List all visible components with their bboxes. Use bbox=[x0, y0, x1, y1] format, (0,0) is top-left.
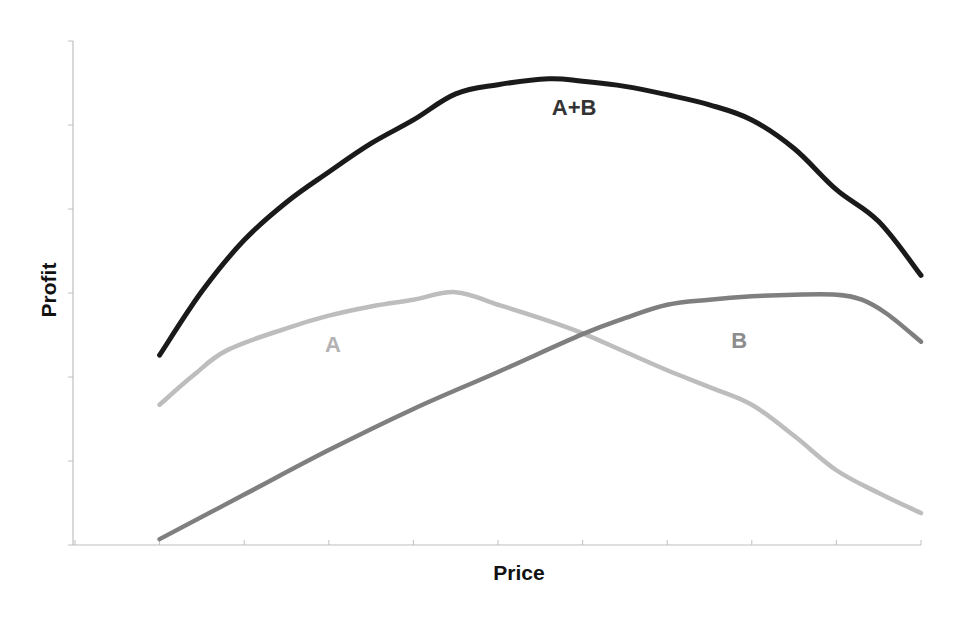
y-axis-title: Profit bbox=[37, 263, 60, 318]
profit-price-chart: A+BAB Price Profit bbox=[0, 0, 961, 618]
series-line-aplusb bbox=[160, 79, 921, 355]
series-group bbox=[160, 79, 921, 539]
series-label-aplusb: A+B bbox=[552, 95, 597, 120]
x-ticks bbox=[75, 540, 921, 545]
series-label-b: B bbox=[731, 328, 747, 353]
x-axis-title: Price bbox=[493, 561, 544, 584]
series-label-a: A bbox=[325, 332, 341, 357]
y-ticks bbox=[68, 41, 73, 545]
